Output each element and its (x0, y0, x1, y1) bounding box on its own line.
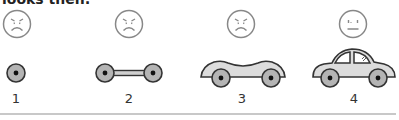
car-body-icon (198, 56, 288, 90)
divider-line (0, 113, 396, 115)
stage-number-4: 4 (344, 91, 364, 106)
angry-face-icon (226, 9, 256, 39)
stage-number-2: 2 (119, 91, 139, 106)
stage-number-3: 3 (232, 91, 252, 106)
stage-number-1: 1 (6, 91, 26, 106)
neutral-face-icon (338, 9, 368, 39)
axle-with-wheels-icon (93, 62, 165, 84)
angry-face-icon (114, 9, 144, 39)
angry-face-icon (2, 9, 32, 39)
complete-car-icon (310, 44, 398, 90)
header-text: looks then: (2, 0, 90, 7)
single-wheel-icon (5, 62, 27, 84)
